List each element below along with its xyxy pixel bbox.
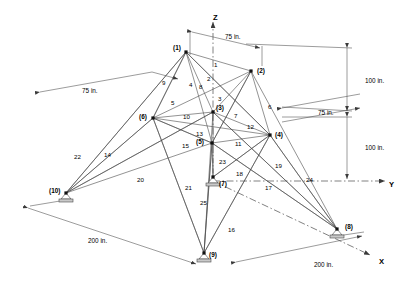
member-label-2: 2: [207, 76, 210, 82]
dimension-label-upper-100: 100 in.: [365, 78, 384, 84]
member-label-4: 4: [189, 82, 192, 88]
node-label-4: (4): [275, 132, 283, 138]
node-label-9: (9): [209, 252, 217, 258]
truss-svg: [0, 0, 412, 289]
y-axis-label: Y: [389, 181, 394, 189]
member-label-13: 13: [196, 131, 203, 137]
truss-member: [212, 143, 337, 229]
truss-member: [204, 135, 270, 253]
dim-ext-100-mid-a: [282, 107, 352, 111]
truss-diagram: (1)(2)(3)(4)(5)(6)(7)(8)(9)(10)123456789…: [0, 0, 412, 289]
member-label-12: 12: [247, 124, 254, 130]
member-label-19: 19: [275, 163, 282, 169]
dim-line-right-75a: [282, 94, 360, 108]
node-label-7: (7): [219, 181, 227, 187]
dimension-label-top-75: 75 in.: [225, 34, 241, 40]
member-label-22: 22: [74, 154, 81, 160]
member-label-3: 3: [218, 96, 221, 102]
member-label-20: 20: [137, 177, 144, 183]
joint-marker: [249, 69, 252, 72]
member-label-17: 17: [265, 185, 272, 191]
dimension-label-right-75: 75 in.: [318, 110, 334, 116]
support-symbols: [59, 177, 344, 262]
truss-member: [213, 112, 270, 135]
member-label-15: 15: [182, 143, 189, 149]
dimension-label-lower-100: 100 in.: [365, 145, 384, 151]
member-label-1: 1: [214, 62, 217, 68]
node-label-2: (2): [257, 68, 265, 74]
member-label-24: 24: [306, 177, 313, 183]
x-axis-line: [213, 181, 370, 255]
dim-line-right-200: [236, 236, 362, 262]
node-label-6: (6): [139, 114, 147, 120]
x-axis-label: X: [379, 258, 384, 266]
member-label-9: 9: [162, 80, 165, 86]
joint-marker: [268, 133, 271, 136]
dim-line-left-200: [28, 208, 196, 264]
member-label-10: 10: [183, 114, 190, 120]
member-label-18: 18: [236, 171, 243, 177]
member-label-7: 7: [234, 113, 237, 119]
dimension-lines: [28, 30, 364, 264]
joint-marker: [151, 116, 154, 119]
node-label-1: (1): [173, 45, 181, 51]
joint-marker: [184, 50, 187, 53]
axis-lines: [213, 22, 385, 255]
joint-marker: [210, 141, 213, 144]
joint-marker: [211, 175, 214, 178]
node-label-8: (8): [345, 224, 353, 230]
member-label-8: 8: [199, 84, 202, 90]
joint-marker: [202, 251, 205, 254]
member-label-11: 11: [235, 141, 241, 147]
member-label-5: 5: [171, 100, 174, 106]
member-label-21: 21: [185, 185, 192, 191]
member-label-6: 6: [268, 104, 271, 110]
truss-member: [66, 52, 186, 193]
node-label-10: (10): [49, 188, 60, 194]
truss-member: [153, 71, 251, 118]
joint-marker: [211, 110, 214, 113]
truss-member: [270, 135, 337, 229]
member-label-23: 23: [219, 159, 226, 165]
joint-marker: [335, 227, 338, 230]
node-label-3: (3): [216, 105, 224, 111]
dimension-label-left-200: 200 in.: [88, 238, 107, 244]
joint-marker: [64, 191, 67, 194]
member-label-25: 25: [200, 200, 207, 206]
member-label-16: 16: [228, 227, 235, 233]
z-axis-label: Z: [213, 14, 218, 22]
dimension-label-left-75: 75 in.: [82, 88, 98, 94]
dimension-label-right-200: 200 in.: [314, 262, 333, 268]
node-label-5: (5): [196, 139, 204, 145]
member-label-14: 14: [104, 152, 111, 158]
